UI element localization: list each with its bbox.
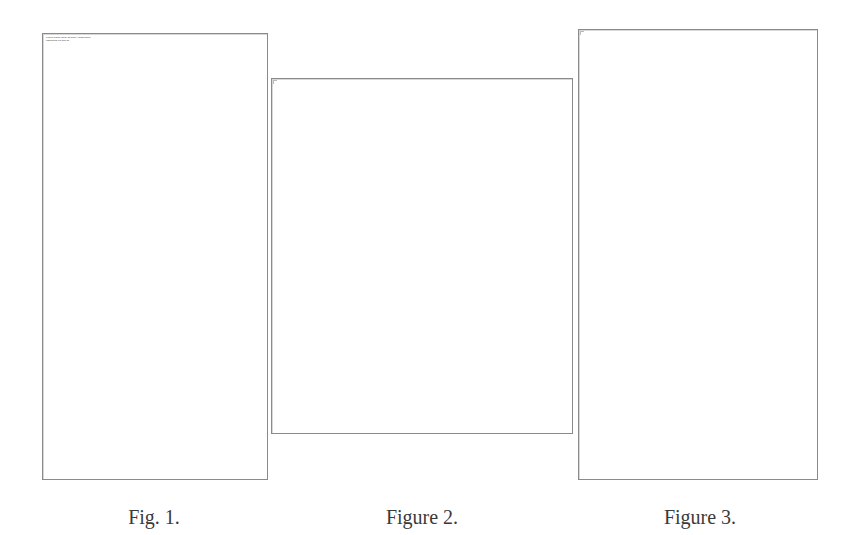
figure-1-header-text: Lorem ipsum dolor sit amet, consectetur …	[46, 36, 106, 42]
figure-2-frame	[271, 78, 573, 434]
figure-3-frame	[578, 29, 818, 480]
figure-3-caption: Figure 3.	[640, 506, 760, 529]
figure-2-corner-mark	[273, 80, 277, 84]
figure-1-frame: Lorem ipsum dolor sit amet, consectetur …	[42, 33, 268, 480]
figure-1-header-line: adipiscing elit sed do	[46, 39, 106, 42]
figure-3-corner-mark	[580, 31, 584, 35]
figure-1-caption: Fig. 1.	[104, 506, 204, 529]
figure-2-caption: Figure 2.	[372, 506, 472, 529]
